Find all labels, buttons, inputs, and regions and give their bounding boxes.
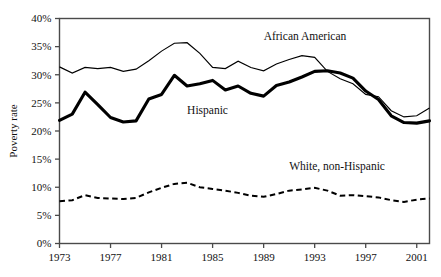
plot-frame (60, 19, 430, 244)
series-line-white-non-hispanic (60, 183, 430, 202)
y-tick-label: 20% (31, 125, 51, 137)
series-label-african-american: African American (264, 30, 347, 42)
poverty-rate-line-chart: 0%5%10%15%20%25%30%35%40% 19731977198119… (0, 0, 441, 277)
x-axis-tick-labels: 19731977198119851989199319972001 (49, 251, 428, 263)
data-series-lines (60, 43, 430, 202)
x-tick-label: 1985 (202, 251, 225, 263)
y-tick-label: 0% (37, 237, 52, 249)
series-label-hispanic: Hispanic (187, 104, 228, 117)
x-tick-label: 1973 (49, 251, 72, 263)
plot-area-border (60, 19, 430, 244)
y-tick-label: 25% (31, 97, 51, 109)
x-tick-label: 1993 (304, 251, 327, 263)
series-line-hispanic (60, 71, 430, 123)
y-tick-label: 30% (31, 69, 51, 81)
x-tick-label: 1997 (355, 251, 378, 263)
y-tick-label: 35% (31, 40, 51, 52)
chart-canvas: 0%5%10%15%20%25%30%35%40% 19731977198119… (0, 0, 441, 277)
y-tick-label: 15% (31, 153, 51, 165)
series-line-african-american (60, 43, 430, 117)
y-axis-tick-labels: 0%5%10%15%20%25%30%35%40% (31, 12, 51, 249)
y-tick-label: 5% (37, 209, 52, 221)
y-tick-label: 10% (31, 181, 51, 193)
series-label-white-non-hispanic: White, non-Hispanic (289, 160, 385, 173)
x-tick-label: 1989 (253, 251, 276, 263)
y-tick-label: 40% (31, 12, 51, 24)
x-tick-label: 1977 (100, 251, 123, 263)
x-tick-label: 2001 (406, 251, 428, 263)
series-inline-labels: African AmericanHispanicWhite, non-Hispa… (187, 30, 385, 173)
y-axis-title: Poverty rate (7, 104, 19, 158)
x-tick-label: 1981 (151, 251, 173, 263)
